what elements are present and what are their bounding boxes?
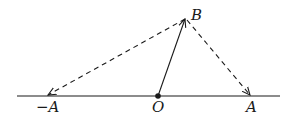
label-a: A [244, 98, 257, 116]
vector-diagram: B −A O A [0, 0, 295, 119]
vector-b-to-neg-a [48, 19, 185, 95]
vector-o-to-b [158, 19, 185, 96]
vector-b-to-a [187, 20, 250, 95]
label-neg-a: −A [36, 98, 60, 116]
label-b: B [190, 6, 202, 24]
label-o: O [152, 98, 164, 116]
